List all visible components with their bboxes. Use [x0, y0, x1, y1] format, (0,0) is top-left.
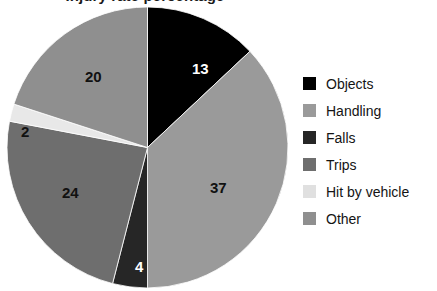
- legend-item: Hit by vehicle: [303, 178, 437, 205]
- pie-svg: [7, 7, 288, 288]
- legend-item: Trips: [303, 151, 437, 178]
- legend-item: Handling: [303, 97, 437, 124]
- legend-swatch-icon: [303, 158, 316, 171]
- legend-item: Objects: [303, 70, 437, 97]
- pie-graphic: 1337424220: [7, 7, 288, 288]
- legend-swatch-icon: [303, 212, 316, 225]
- legend-item-label: Hit by vehicle: [326, 185, 409, 199]
- pie-chart-figure: Injury rate percentage 1337424220 Object…: [0, 0, 437, 291]
- legend-item: Other: [303, 205, 437, 232]
- legend-swatch-icon: [303, 185, 316, 198]
- legend-swatch-icon: [303, 77, 316, 90]
- legend-item-label: Trips: [326, 158, 357, 172]
- legend-item-label: Handling: [326, 104, 381, 118]
- legend-swatch-icon: [303, 131, 316, 144]
- legend-item-label: Other: [326, 212, 361, 226]
- legend-item-label: Objects: [326, 77, 373, 91]
- chart-legend: ObjectsHandlingFallsTripsHit by vehicleO…: [303, 70, 437, 232]
- chart-title: Injury rate percentage: [0, 0, 290, 4]
- legend-item: Falls: [303, 124, 437, 151]
- legend-swatch-icon: [303, 104, 316, 117]
- legend-item-label: Falls: [326, 131, 356, 145]
